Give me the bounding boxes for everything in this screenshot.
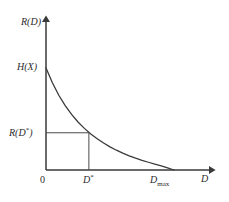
- rate-at-dstar-label: R(D*): [9, 127, 33, 138]
- dstar-superscript: *: [90, 173, 94, 181]
- rate-at-dstar-close-paren: ): [29, 127, 32, 138]
- y-axis-title: R(D): [21, 17, 41, 27]
- plot-canvas: [0, 0, 229, 202]
- x-tick-dmax: Dmax: [150, 175, 169, 188]
- x-tick-dstar: D*: [83, 174, 94, 185]
- rate-distortion-curve: [46, 68, 174, 170]
- x-axis-title: D: [201, 174, 208, 184]
- dmax-subscript: max: [157, 180, 169, 188]
- x-tick-origin: 0: [40, 175, 45, 185]
- rate-distortion-figure: R(D) H(X) R(D*) 0 D* Dmax D: [0, 0, 229, 202]
- y-intercept-label: H(X): [17, 62, 37, 72]
- rate-at-dstar-main: R(D: [9, 127, 26, 138]
